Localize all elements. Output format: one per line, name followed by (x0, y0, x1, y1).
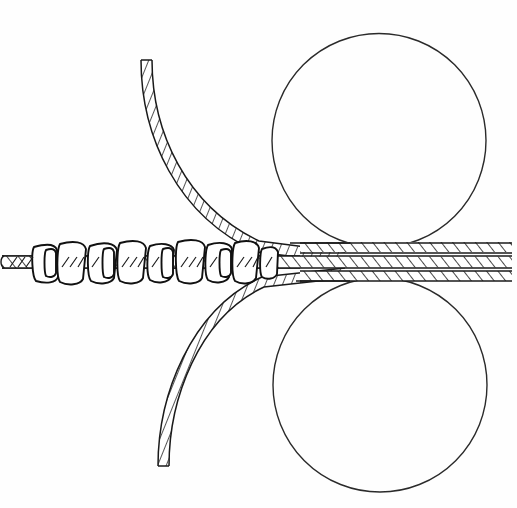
technical-drawing-canvas (0, 0, 517, 508)
figure-root (0, 0, 517, 508)
output-band-middle (282, 257, 512, 268)
output-band-bottom (300, 271, 512, 281)
